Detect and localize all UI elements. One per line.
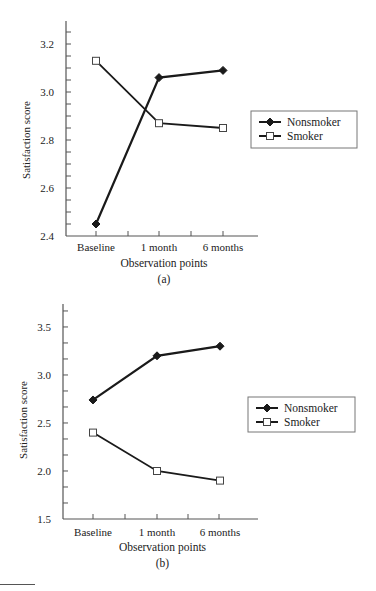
open-square-marker xyxy=(267,133,274,140)
x-tick-label: Baseline xyxy=(74,526,112,538)
y-axis-title: Satisfaction score xyxy=(17,381,29,459)
y-tick-label: 1.5 xyxy=(37,513,51,525)
chart-canvas: 2.42.62.83.03.2Baseline1 month6 monthsOb… xyxy=(0,0,376,591)
y-tick-label: 2.5 xyxy=(37,417,51,429)
y-tick-label: 2.6 xyxy=(40,182,54,194)
y-axis-title: Satisfaction score xyxy=(20,101,32,179)
open-square-marker xyxy=(217,477,224,484)
x-tick-label: Baseline xyxy=(77,241,115,253)
panel-label: (a) xyxy=(158,273,171,286)
y-tick-label: 3.0 xyxy=(37,369,51,381)
legend-label: Nonsmoker xyxy=(284,402,338,414)
series-nonsmoker xyxy=(92,66,227,228)
y-tick-label: 3.0 xyxy=(40,86,54,98)
open-square-marker xyxy=(90,429,97,436)
series-nonsmoker xyxy=(89,342,224,404)
open-square-marker xyxy=(220,125,227,132)
legend: NonsmokerSmoker xyxy=(248,397,355,432)
legend-label: Smoker xyxy=(284,416,320,428)
series-line xyxy=(96,61,223,128)
chart-panel-a: 2.42.62.83.03.2Baseline1 month6 monthsOb… xyxy=(20,21,357,286)
series-line xyxy=(96,70,223,224)
y-tick-label: 3.5 xyxy=(37,321,51,333)
filled-diamond-marker xyxy=(155,74,163,82)
y-tick-label: 3.2 xyxy=(40,38,54,50)
legend: NonsmokerSmoker xyxy=(251,111,357,148)
x-axis-title: Observation points xyxy=(120,257,208,270)
panel-label: (b) xyxy=(156,557,170,570)
footnote-rule xyxy=(0,584,35,585)
open-square-marker xyxy=(156,120,163,127)
chart-panel-b: 1.52.02.53.03.5Baseline1 month6 monthsOb… xyxy=(17,304,355,570)
figure: 2.42.62.83.03.2Baseline1 month6 monthsOb… xyxy=(0,0,376,591)
filled-diamond-marker xyxy=(219,66,227,74)
open-square-marker xyxy=(264,419,271,426)
x-tick-label: 6 months xyxy=(203,241,244,253)
y-tick-label: 2.4 xyxy=(40,230,54,242)
y-tick-label: 2.0 xyxy=(37,465,51,477)
legend-label: Smoker xyxy=(287,130,323,142)
open-square-marker xyxy=(154,468,161,475)
series-smoker xyxy=(93,57,227,131)
x-axis-title: Observation points xyxy=(119,541,207,554)
x-tick-label: 6 months xyxy=(200,526,241,538)
open-square-marker xyxy=(93,57,100,64)
x-tick-label: 1 month xyxy=(141,241,178,253)
legend-label: Nonsmoker xyxy=(287,116,341,128)
series-smoker xyxy=(90,429,224,484)
y-tick-label: 2.8 xyxy=(40,134,54,146)
filled-diamond-marker xyxy=(216,342,224,350)
filled-diamond-marker xyxy=(92,220,100,228)
x-tick-label: 1 month xyxy=(139,526,176,538)
